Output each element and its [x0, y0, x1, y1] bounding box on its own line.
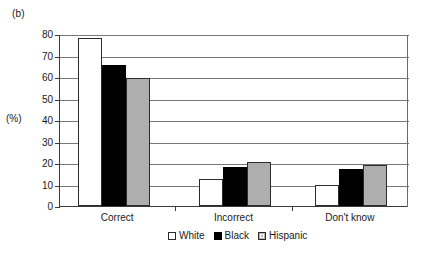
x-axis-tick [175, 207, 176, 211]
y-tick-mark-30 [55, 143, 60, 144]
x-axis-tick [292, 207, 293, 211]
y-tick-label-40: 40 [29, 116, 53, 126]
y-tick-mark-40 [55, 121, 60, 122]
chart-legend: WhiteBlackHispanic [168, 230, 307, 241]
bar-white-incorrect [199, 179, 223, 206]
plot-right-border [407, 35, 408, 207]
y-tick-label-50: 50 [29, 95, 53, 105]
panel-label: (b) [12, 8, 25, 19]
plot-area [59, 35, 408, 207]
bar-hispanic-incorrect [247, 162, 271, 206]
legend-swatch-black-icon [214, 232, 222, 240]
y-tick-label-80: 80 [29, 30, 53, 40]
x-axis-category-label-incorrect: Incorrect [175, 212, 291, 223]
y-tick-mark-60 [55, 78, 60, 79]
y-tick-mark-80 [55, 35, 60, 36]
bar-white-don-t-know [315, 185, 339, 207]
y-tick-mark-50 [55, 100, 60, 101]
y-axis-tick-labels: 01020304050607080 [27, 35, 53, 207]
legend-entry-hispanic: Hispanic [258, 230, 307, 241]
bar-black-incorrect [223, 167, 247, 206]
y-tick-label-70: 70 [29, 52, 53, 62]
y-tick-mark-20 [55, 164, 60, 165]
y-tick-mark-10 [55, 186, 60, 187]
y-tick-label-30: 30 [29, 138, 53, 148]
bar-black-correct [102, 65, 126, 206]
legend-label-hispanic: Hispanic [269, 230, 307, 241]
bar-black-don-t-know [339, 169, 363, 206]
bar-white-correct [78, 38, 102, 206]
y-gridline-70 [60, 57, 409, 58]
x-axis-category-label-correct: Correct [59, 212, 175, 223]
legend-entry-black: Black [214, 230, 249, 241]
legend-swatch-white-icon [168, 232, 176, 240]
bar-hispanic-don-t-know [363, 165, 387, 206]
legend-swatch-hispanic-icon [258, 232, 266, 240]
x-axis-category-label-don-t-know: Don't know [292, 212, 408, 223]
y-tick-mark-0 [55, 207, 60, 208]
y-tick-label-60: 60 [29, 73, 53, 83]
legend-label-white: White [179, 230, 205, 241]
y-tick-label-10: 10 [29, 181, 53, 191]
y-tick-label-20: 20 [29, 159, 53, 169]
legend-entry-white: White [168, 230, 205, 241]
y-tick-mark-70 [55, 57, 60, 58]
y-gridline-80 [60, 35, 409, 36]
bar-chart-figure: (b) (%) 01020304050607080 WhiteBlackHisp… [0, 0, 423, 253]
bar-hispanic-correct [126, 78, 150, 206]
legend-label-black: Black [225, 230, 249, 241]
y-tick-label-0: 0 [29, 202, 53, 212]
y-axis-unit-label: (%) [6, 113, 22, 124]
